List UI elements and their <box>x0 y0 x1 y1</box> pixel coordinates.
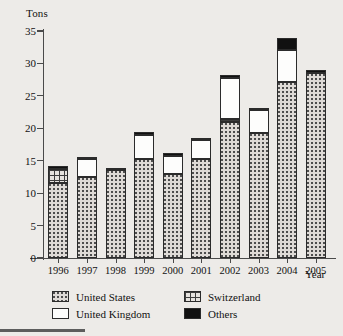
switzerland-grid-swatch <box>184 291 201 302</box>
bar-segment-others <box>106 168 126 171</box>
y-axis-tick-label: 5 <box>0 220 36 231</box>
x-axis-tick <box>316 258 317 263</box>
bar-2005 <box>306 31 326 258</box>
bar-segment-switzerland <box>48 169 68 184</box>
uk-white-swatch <box>52 308 69 319</box>
x-axis-tick <box>201 258 202 263</box>
y-axis-tick-label: 0 <box>0 253 36 264</box>
bar-1997 <box>77 31 97 258</box>
bar-segment-united-kingdom <box>191 140 211 159</box>
bar-segment-united-states <box>191 159 211 258</box>
x-axis-tick <box>116 258 117 263</box>
x-axis-tick <box>58 258 59 263</box>
legend-label: United Kingdom <box>76 308 150 320</box>
bar-segment-united-states <box>163 174 183 258</box>
bar-2002 <box>220 31 240 258</box>
bar-segment-united-kingdom <box>277 50 297 82</box>
y-axis-tick <box>37 128 44 129</box>
x-axis-tick-label: 1997 <box>76 265 97 276</box>
legend-row: United States Switzerland <box>52 288 302 305</box>
x-axis-tick <box>287 258 288 263</box>
bar-segment-united-kingdom <box>163 156 183 174</box>
bar-segment-united-states <box>106 170 126 258</box>
x-axis-tick <box>173 258 174 263</box>
bar-segment-switzerland <box>220 119 240 122</box>
x-axis-tick <box>259 258 260 263</box>
bar-segment-others <box>191 138 211 140</box>
us-dotted-swatch <box>52 291 69 302</box>
legend-label: United States <box>76 291 135 303</box>
bar-segment-others <box>220 75 240 78</box>
chart-figure: Tons Year 05101520253035 199619971998199… <box>0 0 343 336</box>
chart-legend: United States Switzerland United Kingdom… <box>52 288 302 322</box>
y-axis-tick <box>37 257 44 258</box>
footer-rule <box>0 329 85 332</box>
bar-segment-united-states <box>134 159 154 258</box>
bar-1996 <box>48 31 68 258</box>
legend-item-united-kingdom: United Kingdom <box>52 308 184 320</box>
y-axis-tick <box>37 63 44 64</box>
legend-row: United Kingdom Others <box>52 305 302 322</box>
x-axis-tick <box>87 258 88 263</box>
y-axis-tick <box>37 160 44 161</box>
legend-item-switzerland: Switzerland <box>184 291 261 303</box>
legend-item-others: Others <box>184 308 237 320</box>
x-axis-tick-label: 1999 <box>134 265 155 276</box>
x-axis-line <box>30 258 336 259</box>
bar-segment-others <box>306 70 326 73</box>
bar-segment-others <box>134 132 154 135</box>
bar-2000 <box>163 31 183 258</box>
bar-segment-united-kingdom <box>220 78 240 118</box>
y-axis-tick <box>37 193 44 194</box>
bar-segment-united-states <box>48 183 68 258</box>
y-axis-tick-label: 25 <box>0 90 36 101</box>
y-axis-tick-label: 30 <box>0 58 36 69</box>
bar-segment-united-states <box>249 133 269 258</box>
x-axis-tick-label: 2001 <box>191 265 212 276</box>
bar-segment-united-states <box>77 177 97 258</box>
x-axis-tick <box>230 258 231 263</box>
bar-segment-united-kingdom <box>134 135 154 160</box>
legend-label: Others <box>208 308 237 320</box>
y-axis-tick <box>37 30 44 31</box>
y-axis-tick <box>37 225 44 226</box>
x-axis-tick-label: 2004 <box>277 265 298 276</box>
x-axis-tick-label: 2002 <box>219 265 240 276</box>
legend-label: Switzerland <box>208 291 261 303</box>
bar-segment-others <box>277 38 297 50</box>
bar-2001 <box>191 31 211 258</box>
y-axis-tick-label: 35 <box>0 26 36 37</box>
bar-segment-united-kingdom <box>249 110 269 133</box>
x-axis-tick <box>144 258 145 263</box>
x-axis-tick-label: 2003 <box>248 265 269 276</box>
legend-item-united-states: United States <box>52 291 184 303</box>
x-axis-tick-label: 2005 <box>305 265 326 276</box>
bar-2004 <box>277 31 297 258</box>
bar-segment-united-states <box>220 122 240 258</box>
bar-segment-united-kingdom <box>77 159 97 177</box>
y-axis-tick-label: 15 <box>0 155 36 166</box>
y-axis-title: Tons <box>26 7 48 19</box>
bar-segment-others <box>77 157 97 159</box>
x-axis-tick-label: 1996 <box>48 265 69 276</box>
bar-1999 <box>134 31 154 258</box>
bar-2003 <box>249 31 269 258</box>
bar-segment-others <box>48 166 68 169</box>
bar-segment-others <box>163 153 183 156</box>
bar-segment-united-states <box>306 73 326 258</box>
y-axis-tick <box>37 95 44 96</box>
plot-area <box>44 31 330 258</box>
x-axis-tick-label: 1998 <box>105 265 126 276</box>
y-axis-tick-label: 10 <box>0 188 36 199</box>
bar-segment-others <box>249 108 269 110</box>
y-axis-tick-label: 20 <box>0 123 36 134</box>
bar-1998 <box>106 31 126 258</box>
x-axis-tick-label: 2000 <box>162 265 183 276</box>
others-black-swatch <box>184 308 201 319</box>
bar-segment-united-states <box>277 82 297 258</box>
